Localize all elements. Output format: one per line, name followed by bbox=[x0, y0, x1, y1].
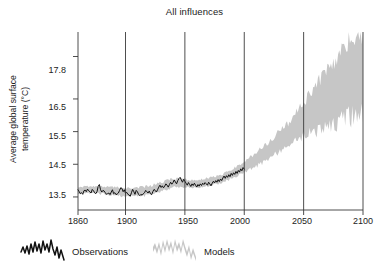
legend-label-observations: Observations bbox=[72, 246, 128, 257]
models-zigzag-icon bbox=[152, 238, 198, 262]
chart-legend: Observations Models bbox=[0, 238, 389, 272]
observations-zigzag-icon bbox=[20, 238, 66, 262]
chart-figure: All influences Average global surface te… bbox=[0, 0, 389, 278]
models-band bbox=[78, 32, 363, 197]
plot-area bbox=[0, 0, 389, 278]
legend-label-models: Models bbox=[204, 246, 235, 257]
